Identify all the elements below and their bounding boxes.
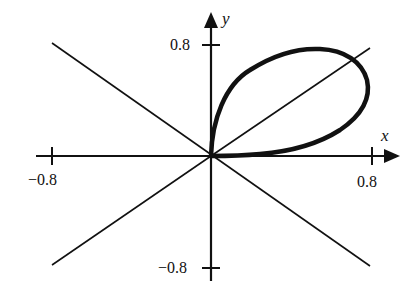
x-tick-label-neg: −0.8	[28, 172, 57, 188]
y-tick-label-neg: −0.8	[158, 260, 187, 276]
plot-canvas	[0, 0, 416, 281]
y-axis-label: y	[222, 10, 230, 27]
y-axis-arrow-icon	[204, 12, 218, 28]
diagonal-line-lower-left	[52, 156, 211, 265]
polar-plot: y x 0.8 −0.8 −0.8 0.8	[0, 0, 416, 281]
x-tick-label-pos: 0.8	[357, 174, 377, 190]
diagonal-line-upper-right	[211, 48, 370, 156]
x-axis-label: x	[381, 127, 389, 144]
x-axis-arrow-icon	[384, 149, 400, 163]
y-tick-label-pos: 0.8	[170, 37, 190, 53]
